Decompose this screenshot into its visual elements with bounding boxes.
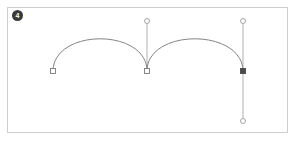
handle-knob-middle-up[interactable] <box>145 19 150 24</box>
anchor-point-middle[interactable] <box>145 69 150 74</box>
bezier-path[interactable] <box>53 39 243 71</box>
handle-knob-end-down[interactable] <box>241 119 246 124</box>
step-number-badge: 4 <box>12 10 23 21</box>
anchor-point-start[interactable] <box>51 69 56 74</box>
anchor-points-group <box>51 69 246 74</box>
vector-editor-canvas-area: 4 <box>0 0 296 141</box>
anchor-point-end-selected[interactable] <box>241 69 246 74</box>
vector-path-layer <box>0 0 296 141</box>
handle-lines-group <box>147 21 243 121</box>
handle-knobs-group <box>145 19 246 124</box>
handle-knob-end-up[interactable] <box>241 19 246 24</box>
